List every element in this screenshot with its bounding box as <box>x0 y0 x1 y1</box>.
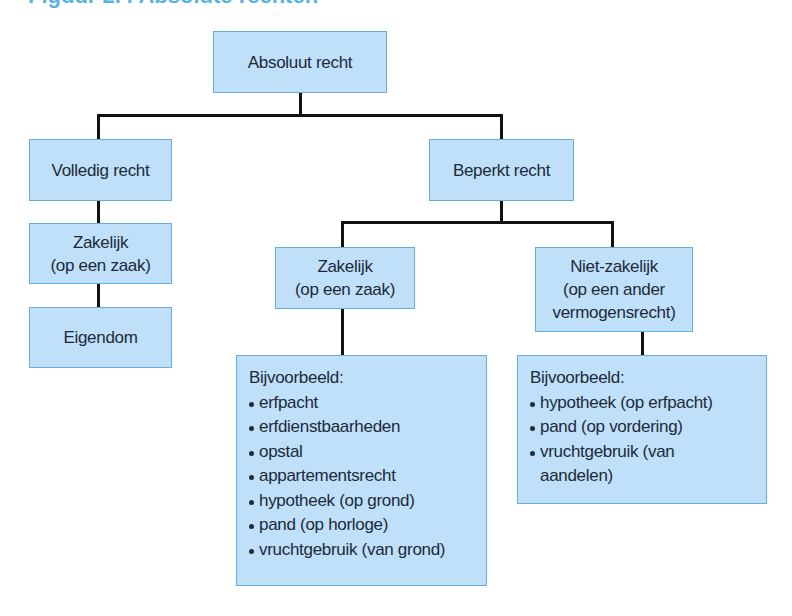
node-eigendom: Eigendom <box>29 307 172 368</box>
examples-list: hypotheek (op erfpacht) pand (op vorderi… <box>530 391 713 489</box>
connector-to-volledig <box>97 114 100 140</box>
examples-heading: Bijvoorbeeld: <box>249 366 343 391</box>
list-item: hypotheek (op erfpacht) <box>530 391 713 416</box>
node-label-line2: (op een zaak) <box>50 254 150 277</box>
node-volledig-zakelijk: Zakelijk (op een zaak) <box>29 223 172 284</box>
node-label-line1: Niet-zakelijk <box>570 255 658 278</box>
list-item: erfdienstbaarheden <box>249 415 445 440</box>
node-beperkt-recht: Beperkt recht <box>429 139 574 201</box>
connector-to-niet-zakelijk <box>611 221 614 248</box>
node-niet-zakelijk-examples: Bijvoorbeeld: hypotheek (op erfpacht) pa… <box>517 355 767 504</box>
list-item: hypotheek (op grond) <box>249 489 445 514</box>
connector-level1-horizontal <box>97 114 503 117</box>
list-item: vruchtgebruik (van grond) <box>249 538 445 563</box>
node-volledig-recht: Volledig recht <box>29 139 172 201</box>
node-label: Beperkt recht <box>453 159 550 182</box>
node-label: Eigendom <box>63 326 137 349</box>
list-item: pand (op horloge) <box>249 513 445 538</box>
examples-list: erfpacht erfdienstbaarheden opstal appar… <box>249 391 445 563</box>
node-niet-zakelijk: Niet-zakelijk (op een ander vermogensrec… <box>535 247 693 332</box>
list-item: appartementsrecht <box>249 464 445 489</box>
connector-to-beperkt-zakelijk <box>341 221 344 248</box>
figure-title: Figuur 2.4 Absolute rechten <box>28 0 318 9</box>
node-label-line2: (op een ander <box>563 278 665 301</box>
connector-zakelijk-to-examples <box>341 308 344 356</box>
list-item: erfpacht <box>249 391 445 416</box>
node-label: Volledig recht <box>52 159 150 182</box>
node-label-line1: Zakelijk <box>73 231 128 254</box>
node-label-line2: (op een zaak) <box>295 278 395 301</box>
node-label-line3: vermogensrecht) <box>552 301 675 324</box>
list-item: pand (op vordering) <box>530 415 713 440</box>
node-label-line1: Zakelijk <box>317 255 372 278</box>
node-label: Absoluut recht <box>248 51 352 74</box>
connector-niet-zakelijk-to-examples <box>641 331 644 356</box>
list-item-continuation: aandelen) <box>530 464 713 489</box>
list-item: opstal <box>249 440 445 465</box>
connector-level2-horizontal <box>341 221 614 224</box>
examples-heading: Bijvoorbeeld: <box>530 366 624 391</box>
connector-root-down <box>299 92 302 116</box>
node-beperkt-zakelijk: Zakelijk (op een zaak) <box>275 247 415 309</box>
node-absoluut-recht: Absoluut recht <box>213 31 387 93</box>
connector-volledig-to-zakelijk <box>97 200 100 224</box>
node-zakelijk-examples: Bijvoorbeeld: erfpacht erfdienstbaarhede… <box>236 355 487 586</box>
connector-to-beperkt <box>500 114 503 140</box>
connector-zakelijk-to-eigendom <box>97 283 100 308</box>
list-item: vruchtgebruik (van <box>530 440 713 465</box>
connector-beperkt-down <box>500 200 503 223</box>
